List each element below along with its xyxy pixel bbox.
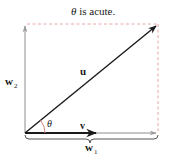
w2-label-base: w xyxy=(5,75,13,87)
diagram-title: θ is acute. xyxy=(71,6,115,17)
w1-label: w1 xyxy=(85,142,97,155)
theta-label-text: θ xyxy=(47,118,52,129)
u-vector-arrow xyxy=(25,26,156,133)
u-label: u xyxy=(80,66,86,77)
u-label-text: u xyxy=(80,65,86,77)
title-text: is acute. xyxy=(76,5,115,17)
w1-label-subscript: 1 xyxy=(94,148,98,155)
v-label: v xyxy=(80,121,85,131)
w2-label-subscript: 2 xyxy=(14,82,18,90)
vector-projection-diagram xyxy=(0,0,170,155)
v-label-text: v xyxy=(80,120,85,131)
theta-label: θ xyxy=(47,119,52,129)
w2-label: w2 xyxy=(5,76,17,90)
w1-label-base: w xyxy=(85,141,93,153)
theta-angle-arc xyxy=(41,120,46,133)
